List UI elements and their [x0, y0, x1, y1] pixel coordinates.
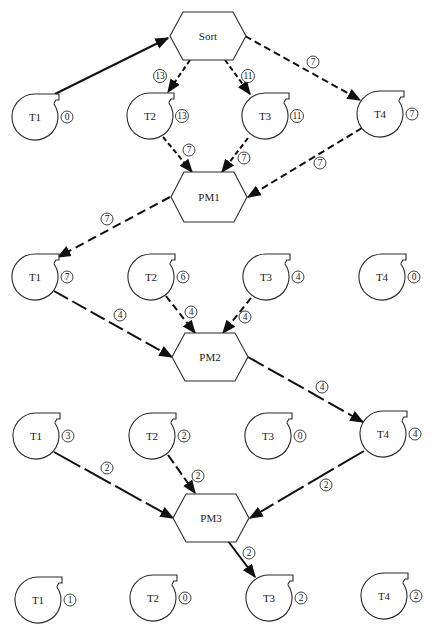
process-label: PM3	[200, 512, 222, 524]
count-value: 4	[296, 272, 301, 282]
count-value: 7	[105, 214, 110, 224]
tape-t2: T22	[129, 413, 190, 459]
count-value: 2	[105, 463, 110, 473]
edge-run-count: 11	[242, 70, 255, 83]
polyphase-merge-diagram: SortPM1PM2PM3T10T213T311T47T17T26T34T40T…	[0, 0, 436, 628]
tape-label: T3	[262, 430, 275, 442]
count-value: 0	[183, 593, 188, 603]
tape-run-count: 7	[406, 108, 418, 120]
tape-row-initial: T10T213T311T47	[12, 91, 418, 140]
tape-label: T2	[146, 430, 158, 442]
tape-run-count: 4	[292, 271, 304, 283]
tape-run-count: 6	[177, 271, 189, 283]
edge-t1-to-pm3	[54, 452, 173, 518]
tape-run-count: 2	[178, 430, 190, 442]
process-pm1: PM1	[171, 172, 247, 222]
count-value: 4	[189, 307, 194, 317]
count-value: 7	[410, 109, 415, 119]
tape-t1: T11	[15, 577, 76, 623]
tape-t1: T13	[13, 413, 74, 459]
edge-run-count: 2	[320, 479, 332, 491]
count-value: 7	[242, 153, 247, 163]
count-value: 2	[182, 431, 187, 441]
count-value: 4	[118, 310, 123, 320]
edge-run-count: 7	[307, 56, 319, 68]
tape-t3: T30	[245, 413, 306, 459]
tape-run-count: 1	[64, 594, 76, 606]
tape-t2: T213	[127, 93, 189, 139]
count-value: 0	[65, 112, 70, 122]
tape-label: T1	[32, 594, 44, 606]
tape-label: T4	[374, 108, 387, 120]
tape-t3: T311	[242, 93, 304, 139]
edge-run-count: 13	[154, 70, 167, 83]
tape-row-after-pm1: T17T26T34T40	[12, 254, 420, 300]
tape-run-count: 0	[179, 592, 191, 604]
edge-run-count: 7	[238, 152, 250, 164]
tape-run-count: 11	[291, 110, 304, 123]
tape-run-count: 0	[61, 111, 73, 123]
tape-run-count: 0	[408, 271, 420, 283]
tape-t4: T47	[357, 91, 418, 137]
edge-run-count: 4	[185, 306, 197, 318]
edge-run-count: 7	[183, 144, 195, 156]
edge-pm1-to-t1	[58, 197, 170, 257]
shapes-layer: SortPM1PM2PM3T10T213T311T47T17T26T34T40T…	[12, 12, 422, 623]
edge-run-count: 2	[243, 547, 255, 559]
count-value: 13	[155, 71, 165, 81]
tape-t1: T10	[12, 94, 73, 140]
edge-run-count: 2	[101, 462, 113, 474]
tape-label: T1	[30, 430, 42, 442]
tape-row-after-pm3: T11T20T32T42	[15, 573, 422, 623]
count-value: 4	[243, 312, 248, 322]
tape-t3: T34	[243, 254, 304, 300]
count-value: 2	[299, 593, 304, 603]
count-value: 11	[292, 111, 301, 121]
tape-label: T4	[376, 271, 389, 283]
tape-run-count: 13	[176, 110, 189, 123]
diagram-canvas: SortPM1PM2PM3T10T213T311T47T17T26T34T40T…	[0, 0, 436, 628]
tape-label: T2	[144, 110, 156, 122]
count-value: 1	[68, 595, 73, 605]
count-value: 0	[298, 431, 303, 441]
edge-pm2-to-t4	[248, 357, 363, 422]
process-pm3: PM3	[173, 494, 249, 542]
process-sort: Sort	[170, 12, 246, 60]
tape-label: T3	[260, 271, 273, 283]
tape-run-count: 3	[62, 430, 74, 442]
edge-run-count: 4	[316, 381, 328, 393]
edge-run-count: 4	[239, 311, 251, 323]
tape-label: T2	[145, 271, 157, 283]
tape-t2: T20	[130, 575, 191, 621]
count-value: 2	[196, 471, 201, 481]
tape-label: T4	[377, 428, 390, 440]
count-value: 2	[414, 591, 419, 601]
count-value: 13	[177, 111, 187, 121]
edge-run-count: 7	[314, 157, 326, 169]
edge-run-count: 7	[101, 213, 113, 225]
count-value: 6	[181, 272, 186, 282]
count-value: 7	[65, 272, 70, 282]
count-value: 7	[311, 57, 316, 67]
count-value: 3	[66, 431, 71, 441]
edge-t1-to-sort	[55, 38, 168, 94]
edge-sort-to-t2	[168, 60, 190, 92]
tape-t4: T40	[359, 254, 420, 300]
edge-t1-to-pm2	[54, 291, 172, 357]
count-value: 7	[318, 158, 323, 168]
tape-t4: T44	[360, 411, 421, 457]
process-label: PM1	[198, 191, 219, 203]
process-pm2: PM2	[172, 333, 248, 381]
edge-t2-to-pm3	[168, 455, 195, 493]
process-label: PM2	[199, 351, 220, 363]
tape-run-count: 0	[294, 430, 306, 442]
tape-label: T4	[378, 590, 391, 602]
edge-run-count: 4	[114, 309, 126, 321]
edge-t4-to-pm3	[250, 451, 364, 518]
edge-run-count: 2	[192, 470, 204, 482]
count-value: 0	[412, 272, 417, 282]
tape-run-count: 2	[295, 592, 307, 604]
count-value: 2	[247, 548, 252, 558]
edge-sort-to-t4	[245, 36, 360, 100]
tape-row-after-pm2: T13T22T30T44	[13, 411, 421, 459]
